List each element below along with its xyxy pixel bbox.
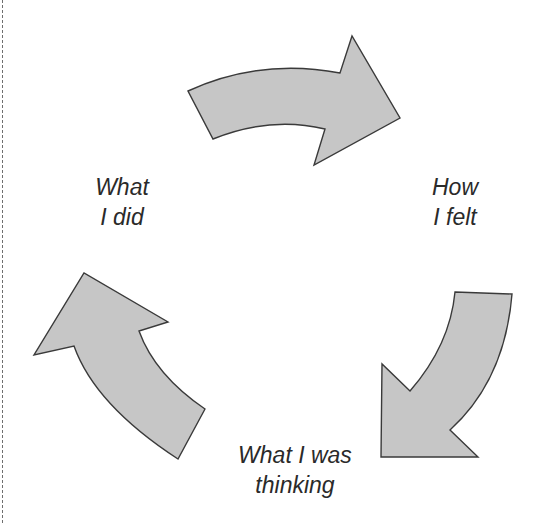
node-label-line: I felt <box>405 202 505 232</box>
node-label-line: How <box>405 172 505 202</box>
node-label-line: thinking <box>200 470 390 500</box>
arrow-thinking-to-did <box>34 273 205 459</box>
arrow-felt-to-thinking <box>381 292 512 457</box>
node-label-what-i-did: What I did <box>72 172 172 232</box>
node-label-line: What <box>72 172 172 202</box>
node-label-how-i-felt: How I felt <box>405 172 505 232</box>
node-label-line: What I was <box>200 440 390 470</box>
arrow-did-to-felt <box>188 36 400 165</box>
node-label-what-i-was-thinking: What I was thinking <box>200 440 390 500</box>
node-label-line: I did <box>72 202 172 232</box>
